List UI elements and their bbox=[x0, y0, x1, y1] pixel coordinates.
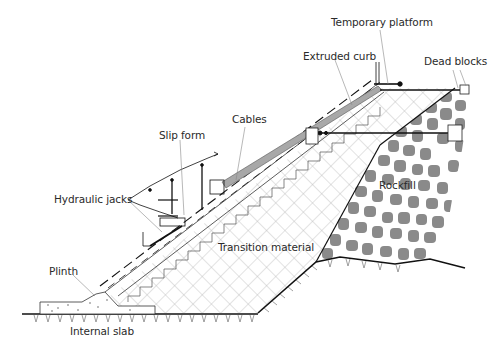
temporary-platform bbox=[374, 62, 402, 86]
dam-cross-section bbox=[0, 0, 498, 354]
label-hydraulic-jacks: Hydraulic jacks bbox=[54, 194, 132, 205]
label-dead-blocks: Dead blocks bbox=[424, 56, 487, 67]
label-plinth: Plinth bbox=[49, 266, 78, 277]
label-slip-form: Slip form bbox=[159, 130, 205, 141]
label-internal-slab: Internal slab bbox=[70, 326, 134, 337]
label-cables: Cables bbox=[232, 114, 267, 125]
label-temporary-platform: Temporary platform bbox=[331, 17, 433, 28]
label-extruded-curb: Extruded curb bbox=[303, 51, 376, 62]
label-transition-material: Transition material bbox=[218, 242, 314, 253]
label-rockfill: Rockfill bbox=[379, 180, 416, 191]
